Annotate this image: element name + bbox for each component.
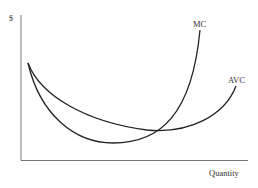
avc-label: AVC: [228, 75, 245, 85]
y-axis-label: $: [9, 14, 13, 23]
x-axis-label: Quantity: [209, 168, 239, 178]
cost-curves-chart: $ MC AVC Quantity: [0, 0, 258, 188]
mc-curve: [28, 30, 200, 143]
mc-label: MC: [193, 19, 207, 29]
